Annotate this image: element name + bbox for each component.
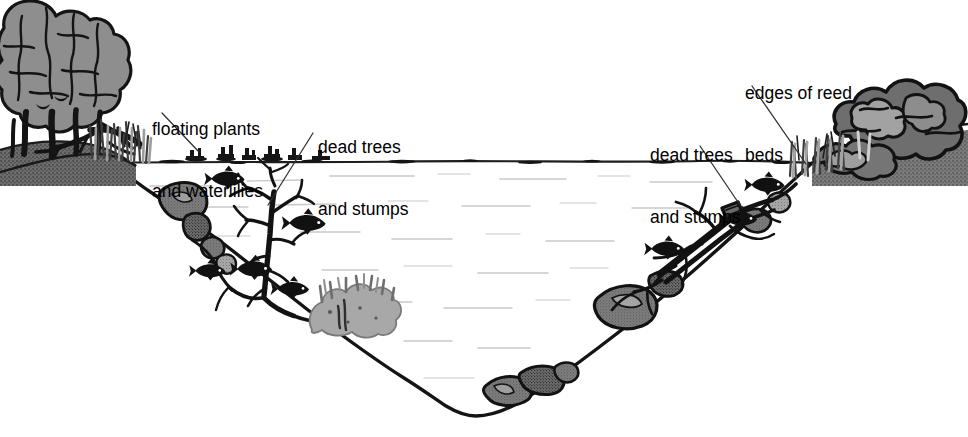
label-edges-of-reed-beds-line1: edges of reed xyxy=(745,83,852,104)
diagram-canvas: floating plants and waterlilies dead tre… xyxy=(0,0,968,437)
label-dead-trees-left: dead trees and stumps xyxy=(318,96,408,260)
label-dead-trees-right: dead trees and stumps xyxy=(650,104,740,268)
label-floating-plants-line2: and waterlilies xyxy=(152,181,263,202)
label-dead-trees-left-line1: dead trees xyxy=(318,137,408,158)
label-floating-plants-line1: floating plants xyxy=(152,119,263,140)
label-floating-plants: floating plants and waterlilies xyxy=(152,78,263,242)
label-dead-trees-right-line2: and stumps xyxy=(650,207,740,228)
label-dead-trees-left-line2: and stumps xyxy=(318,199,408,220)
label-dead-trees-right-line1: dead trees xyxy=(650,145,740,166)
label-edges-of-reed-beds-line2: beds xyxy=(745,145,852,166)
label-edges-of-reed-beds: edges of reed beds xyxy=(745,42,852,206)
